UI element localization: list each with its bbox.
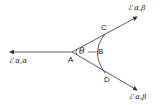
upper-vector-label: ℰ α,β: [128, 5, 145, 12]
lower-vector-line: [72, 52, 137, 90]
diagram-canvas: A B C D θ ℰ α,β ℰ α,α ℰ α,β: [0, 0, 161, 105]
point-a-label: A: [68, 56, 73, 64]
lower-vector-label: ℰ α,β: [129, 94, 146, 101]
point-c-label: C: [101, 24, 107, 32]
point-b-label: B: [98, 48, 103, 56]
left-vector-label: ℰ α,α: [9, 58, 27, 65]
point-d-label: D: [104, 76, 110, 84]
theta-label: θ: [79, 47, 84, 56]
